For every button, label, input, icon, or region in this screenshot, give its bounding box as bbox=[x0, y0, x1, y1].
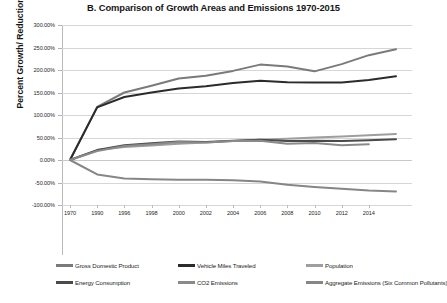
legend-item[interactable]: CO2 Emissions bbox=[178, 279, 238, 286]
series-lines bbox=[62, 25, 412, 255]
y-tick-label: 0.00% bbox=[40, 157, 55, 163]
legend-swatch-icon bbox=[306, 281, 323, 284]
y-tick-label: 100.00% bbox=[34, 112, 55, 118]
y-tick-label: -100.00% bbox=[32, 202, 55, 208]
legend-swatch-icon bbox=[178, 264, 195, 267]
legend-item[interactable]: Vehicle Miles Traveled bbox=[178, 262, 255, 269]
series-line bbox=[70, 139, 396, 160]
legend-label: Gross Domestic Product bbox=[75, 262, 139, 269]
plot-area: 300.00%250.00%200.00%150.00%100.00%50.00… bbox=[62, 25, 412, 255]
y-tick-label: -50.00% bbox=[35, 180, 55, 186]
legend-label: Population bbox=[325, 262, 353, 269]
plot-inner: 300.00%250.00%200.00%150.00%100.00%50.00… bbox=[62, 25, 412, 255]
y-tick-label: 200.00% bbox=[34, 67, 55, 73]
legend-label: Aggregate Emissions (Six Common Pollutan… bbox=[325, 279, 447, 286]
y-axis-title: Percent Growth/ Reduction bbox=[15, 0, 25, 133]
legend-swatch-icon bbox=[178, 281, 195, 284]
series-line bbox=[70, 49, 396, 160]
chart-title: B. Comparison of Growth Areas and Emissi… bbox=[0, 2, 427, 13]
legend-swatch-icon bbox=[56, 281, 73, 284]
legend-label: CO2 Emissions bbox=[197, 279, 238, 286]
legend-item[interactable]: Energy Consumption bbox=[56, 279, 130, 286]
y-tick-label: 300.00% bbox=[34, 22, 55, 28]
y-tick-label: 50.00% bbox=[37, 135, 55, 141]
legend-item[interactable]: Gross Domestic Product bbox=[56, 262, 139, 269]
y-tick-label: 150.00% bbox=[34, 90, 55, 96]
legend-item[interactable]: Aggregate Emissions (Six Common Pollutan… bbox=[306, 279, 447, 286]
legend-row-1: Gross Domestic ProductVehicle Miles Trav… bbox=[56, 262, 422, 278]
legend-row-2: Energy ConsumptionCO2 EmissionsAggregate… bbox=[56, 279, 422, 295]
y-tick-label: 250.00% bbox=[34, 45, 55, 51]
legend-swatch-icon bbox=[56, 264, 73, 267]
legend-item[interactable]: Population bbox=[306, 262, 353, 269]
legend-label: Energy Consumption bbox=[75, 279, 130, 286]
chart-legend: Gross Domestic ProductVehicle Miles Trav… bbox=[56, 262, 422, 302]
series-line bbox=[70, 160, 396, 192]
legend-label: Vehicle Miles Traveled bbox=[197, 262, 255, 269]
legend-swatch-icon bbox=[306, 264, 323, 267]
series-line bbox=[70, 141, 369, 160]
